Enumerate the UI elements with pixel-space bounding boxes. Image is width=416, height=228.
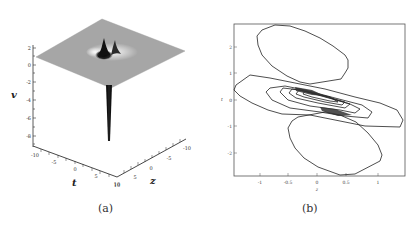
t-tick-label: -5 xyxy=(52,159,57,165)
surface xyxy=(36,19,185,141)
t-tick-label: -10 xyxy=(31,152,39,158)
v-tick-label: 0 xyxy=(28,62,31,68)
z-tick-label: 5 xyxy=(133,174,136,180)
v-axis: 2 0 -2 -4 -6 -8 v xyxy=(11,45,36,147)
z-tick-label: -5 xyxy=(167,155,172,161)
y-tick-label: -1 xyxy=(228,124,233,129)
panel-a-caption: (a) xyxy=(98,202,113,215)
v-tick-label: -2 xyxy=(26,79,31,85)
t-axis-label: t xyxy=(72,177,77,188)
z-axis-label: z xyxy=(149,175,156,186)
x-tick-label: -0.5 xyxy=(284,180,293,185)
x-tick-label: 0 xyxy=(316,180,319,185)
y-tick-label: 2 xyxy=(229,45,232,50)
v-tick-label: -4 xyxy=(26,97,31,103)
v-tick-label: 2 xyxy=(28,45,31,51)
t-tick-label: 5 xyxy=(94,173,97,179)
y-axis-label: t xyxy=(221,97,223,102)
surface-plot-svg: 2 0 -2 -4 -6 -8 v -10 -5 0 xyxy=(0,0,210,228)
panel-a-surface-plot: 2 0 -2 -4 -6 -8 v -10 -5 0 xyxy=(0,0,210,228)
z-tick-label: 10 xyxy=(114,182,120,188)
x-axis-label: z xyxy=(315,187,319,192)
t-axis: -10 -5 0 5 10 t xyxy=(31,146,120,188)
panel-b-caption: (b) xyxy=(302,202,318,215)
v-axis-label: v xyxy=(11,89,17,100)
z-axis: 10 5 0 -5 -10 z xyxy=(114,139,191,188)
x-tick-label: 1 xyxy=(377,180,380,185)
x-tick-label: 0.5 xyxy=(342,180,349,185)
v-tick-label: -8 xyxy=(26,133,31,139)
v-tick-label: -6 xyxy=(26,115,31,121)
z-tick-label: 0 xyxy=(149,165,152,171)
panel-b-contour-plot: 2 1 0 -1 -2 t -1 -0.5 0 0.5 1 xyxy=(210,0,416,228)
y-tick-label: 1 xyxy=(229,71,232,76)
x-tick-label: -1 xyxy=(258,180,263,185)
z-tick-label: -10 xyxy=(183,145,191,151)
t-tick-label: 0 xyxy=(73,166,76,172)
y-tick-label: -2 xyxy=(228,151,233,156)
plot-frame xyxy=(234,24,405,176)
contour-plot-svg: 2 1 0 -1 -2 t -1 -0.5 0 0.5 1 xyxy=(210,0,416,228)
y-tick-label: 0 xyxy=(229,98,232,103)
